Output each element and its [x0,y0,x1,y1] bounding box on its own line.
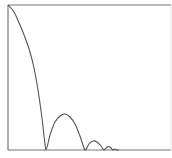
plot-background [0,0,172,158]
chart [0,0,172,158]
